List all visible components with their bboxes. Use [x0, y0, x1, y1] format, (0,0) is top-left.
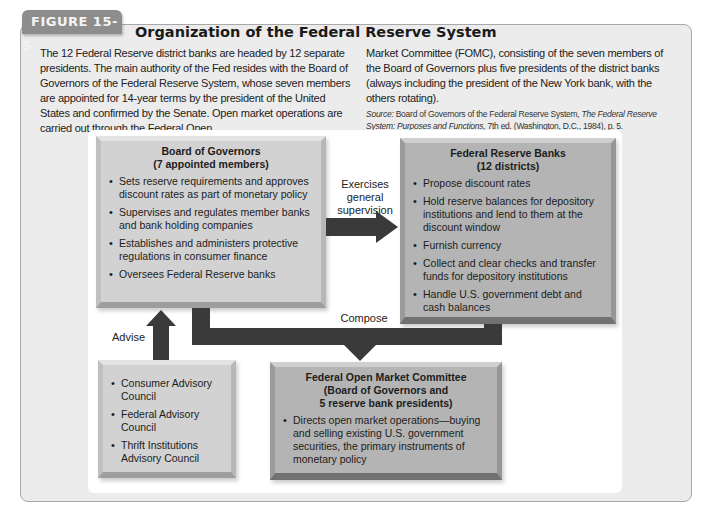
list-item: Consumer Advisory Council	[111, 377, 225, 403]
list-item: Establishes and administers protective r…	[109, 237, 315, 263]
list-item: Handle U.S. government debt and cash bal…	[413, 288, 605, 314]
caption-right-text: Market Committee (FOMC), consisting of t…	[366, 47, 663, 104]
list-item: Propose discount rates	[413, 177, 605, 190]
list-item: Hold reserve balances for depository ins…	[413, 195, 605, 234]
source-label: Source:	[366, 109, 394, 119]
federal-reserve-banks-box: Federal Reserve Banks(12 districts) Prop…	[400, 138, 616, 324]
banks-list: Propose discount rates Hold reserve bala…	[405, 177, 611, 314]
source-text: Board of Governors of the Federal Reserv…	[396, 109, 580, 119]
supervision-arrow-icon	[376, 211, 398, 243]
list-item: Supervises and regulates member banks an…	[109, 206, 315, 232]
list-item: Thrift Institutions Advisory Council	[111, 439, 225, 465]
compose-bar-horizontal	[192, 328, 502, 345]
banks-title: Federal Reserve Banks(12 districts)	[405, 147, 611, 173]
board-title: Board of Governors(7 appointed members)	[101, 145, 321, 171]
list-item: Furnish currency	[413, 239, 605, 252]
compose-label: Compose	[334, 312, 394, 325]
advisory-list: Consumer Advisory Council Federal Adviso…	[103, 365, 231, 465]
caption-right: Market Committee (FOMC), consisting of t…	[366, 46, 676, 132]
advise-label: Advise	[112, 331, 152, 344]
list-item: Federal Advisory Council	[111, 408, 225, 434]
fomc-box: Federal Open Market Committee(Board of G…	[270, 362, 502, 480]
fomc-list: Directs open market operations—buying an…	[275, 414, 497, 466]
advisory-councils-box: Consumer Advisory Council Federal Adviso…	[98, 360, 236, 478]
figure-title: Organization of the Federal Reserve Syst…	[135, 24, 497, 40]
fomc-title: Federal Open Market Committee(Board of G…	[275, 371, 497, 410]
advise-arrow-shaft	[153, 325, 169, 360]
list-item: Oversees Federal Reserve banks	[109, 268, 315, 281]
supervision-arrow-shaft	[326, 218, 378, 236]
source-note: Source: Board of Governors of the Federa…	[366, 108, 676, 132]
board-of-governors-box: Board of Governors(7 appointed members) …	[96, 136, 326, 308]
advise-arrow-icon	[146, 310, 176, 326]
compose-arrow-icon	[344, 345, 376, 361]
board-list: Sets reserve requirements and approves d…	[101, 175, 321, 281]
list-item: Directs open market operations—buying an…	[283, 414, 491, 466]
list-item: Sets reserve requirements and approves d…	[109, 175, 315, 201]
compose-bar-right-stub	[484, 324, 502, 332]
list-item: Collect and clear checks and transfer fu…	[413, 257, 605, 283]
figure-label: FIGURE 15-5	[22, 10, 122, 34]
caption-left: The 12 Federal Reserve district banks ar…	[40, 46, 356, 136]
